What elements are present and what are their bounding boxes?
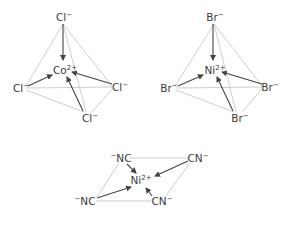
ligand-label-cl-left: Cl− [13, 83, 29, 94]
center-atom-label-ni-square: Ni2+ [130, 175, 151, 186]
ligand-label-br-left: Br− [160, 83, 177, 94]
ligand-label-br-right: Br− [261, 82, 278, 93]
ligand-label-cl-top: Cl− [56, 12, 72, 23]
ligand-label-cn-bottom-right: CN− [151, 196, 172, 207]
ligand-label-nc-top-left: −NC [110, 153, 131, 164]
ligand-label-nc-bottom-left: −NC [74, 196, 95, 207]
center-atom-label-ni: Ni2+ [204, 65, 225, 76]
ligand-label-cn-top-right: CN− [187, 153, 208, 164]
center-atom-label-co: Co2+ [53, 65, 77, 76]
ligand-label-cl-right: Cl− [112, 82, 128, 93]
ligand-label-br-top: Br− [206, 12, 223, 23]
ligand-label-cl-bottom: Cl− [82, 113, 98, 124]
ligand-label-br-bottom: Br− [231, 113, 248, 124]
